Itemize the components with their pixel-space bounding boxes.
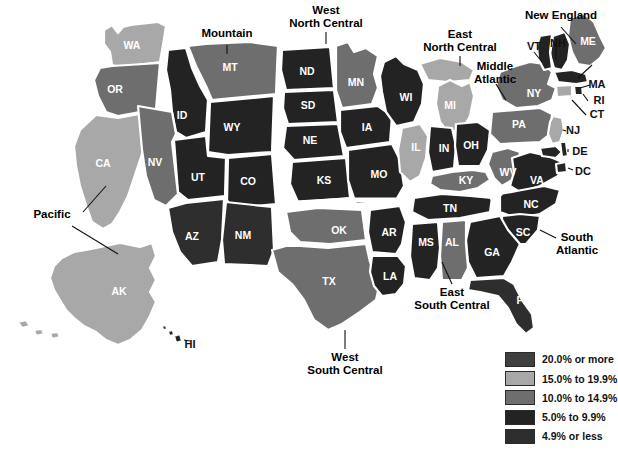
callout-label-RI: RI [594, 94, 605, 106]
callout-label-DE: DE [572, 145, 587, 157]
state-label-MT: MT [222, 61, 238, 73]
state-label-SC: SC [516, 226, 531, 238]
state-label-CA: CA [95, 157, 111, 169]
callout-label-DC: DC [575, 165, 591, 177]
callout-label-MA: MA [588, 78, 605, 90]
region-label-south-atlantic: SouthAtlantic [556, 231, 599, 256]
state-CT[interactable] [556, 85, 572, 97]
state-label-TX: TX [322, 275, 335, 287]
state-MA[interactable] [554, 70, 588, 84]
state-label-NV: NV [148, 156, 163, 168]
legend-label-20plus: 20.0% or more [542, 354, 614, 365]
state-label-PA: PA [512, 118, 526, 130]
state-MS[interactable] [410, 222, 440, 280]
state-label-LA: LA [383, 270, 397, 282]
us-choropleth-map: WAORCANVIDMTWYUTCOAZNMNDSDNEKSMNIAMOWIIL… [0, 0, 618, 460]
state-label-SD: SD [301, 99, 316, 111]
state-label-WV: WV [500, 166, 517, 178]
callout-label-VT: VT [527, 40, 541, 52]
state-label-TN: TN [443, 202, 457, 214]
state-MD [540, 146, 562, 158]
state-label-MS: MS [418, 236, 434, 248]
state-label-MN: MN [348, 76, 364, 88]
legend-swatch-10to14 [505, 390, 535, 405]
region-label-pacific: Pacific [33, 208, 71, 220]
state-label-AZ: AZ [185, 230, 200, 242]
state-label-OK: OK [331, 224, 347, 236]
map-legend: 20.0% or more 15.0% to 19.9% 10.0% to 14… [505, 350, 615, 446]
state-label-ND: ND [299, 65, 315, 77]
state-label-CO: CO [240, 175, 256, 187]
state-label-WI: WI [400, 91, 413, 103]
legend-row: 5.0% to 9.9% [505, 408, 615, 427]
state-HI-1 [162, 325, 167, 330]
legend-swatch-5to9 [505, 410, 535, 425]
state-label-IN: IN [439, 142, 450, 154]
state-label-NC: NC [523, 198, 539, 210]
state-label-KY: KY [459, 174, 474, 186]
state-AK-island-3 [50, 332, 60, 339]
state-label-ME: ME [580, 35, 596, 47]
legend-swatch-4orless [505, 429, 535, 444]
legend-swatch-20plus [505, 352, 535, 367]
legend-label-10to14: 10.0% to 14.9% [542, 393, 617, 404]
state-label-IA: IA [362, 121, 373, 133]
state-label-FL: FL [517, 294, 530, 306]
state-label-NM: NM [235, 229, 252, 241]
state-label-WY: WY [224, 121, 241, 133]
state-label-IL: IL [411, 141, 421, 153]
state-DC[interactable] [556, 162, 567, 173]
state-OK[interactable] [286, 208, 366, 244]
state-label-VA: VA [530, 174, 544, 186]
state-AL[interactable] [440, 220, 468, 280]
state-DE[interactable] [560, 142, 568, 157]
region-label-mountain: Mountain [201, 27, 252, 39]
callout-label-CT: CT [590, 108, 605, 120]
legend-label-4orless: 4.9% or less [542, 431, 603, 442]
legend-row: 15.0% to 19.9% [505, 369, 615, 388]
state-HI-2 [168, 330, 174, 336]
legend-row: 4.9% or less [505, 427, 615, 446]
state-label-MO: MO [371, 168, 388, 180]
state-label-NY: NY [527, 87, 542, 99]
state-label-WA: WA [124, 39, 141, 51]
state-label-GA: GA [484, 246, 500, 258]
region-label-new-england: New England [525, 9, 597, 21]
legend-swatch-15to19 [505, 371, 535, 386]
state-NJ[interactable] [548, 116, 564, 144]
callout-label-HI: HI [185, 338, 196, 350]
callout-label-NH: NH [550, 37, 566, 49]
state-HI-3[interactable] [174, 334, 182, 343]
state-label-ID: ID [177, 109, 188, 121]
state-label-OR: OR [107, 83, 123, 95]
legend-label-5to9: 5.0% to 9.9% [542, 412, 606, 423]
state-label-OH: OH [463, 139, 479, 151]
legend-row: 10.0% to 14.9% [505, 388, 615, 407]
state-label-AK: AK [111, 285, 127, 297]
legend-row: 20.0% or more [505, 350, 615, 369]
state-label-AR: AR [381, 226, 397, 238]
callout-label-NJ: NJ [566, 124, 580, 136]
state-label-NE: NE [303, 134, 318, 146]
state-label-MI: MI [444, 99, 456, 111]
state-AK-island-2 [34, 329, 44, 336]
region-label-middle-atlantic: MiddleAtlantic [474, 60, 517, 85]
state-WY[interactable] [208, 96, 274, 155]
state-label-AL: AL [445, 236, 460, 248]
legend-label-15to19: 15.0% to 19.9% [542, 374, 617, 385]
state-label-UT: UT [191, 171, 206, 183]
state-label-KS: KS [317, 174, 332, 186]
